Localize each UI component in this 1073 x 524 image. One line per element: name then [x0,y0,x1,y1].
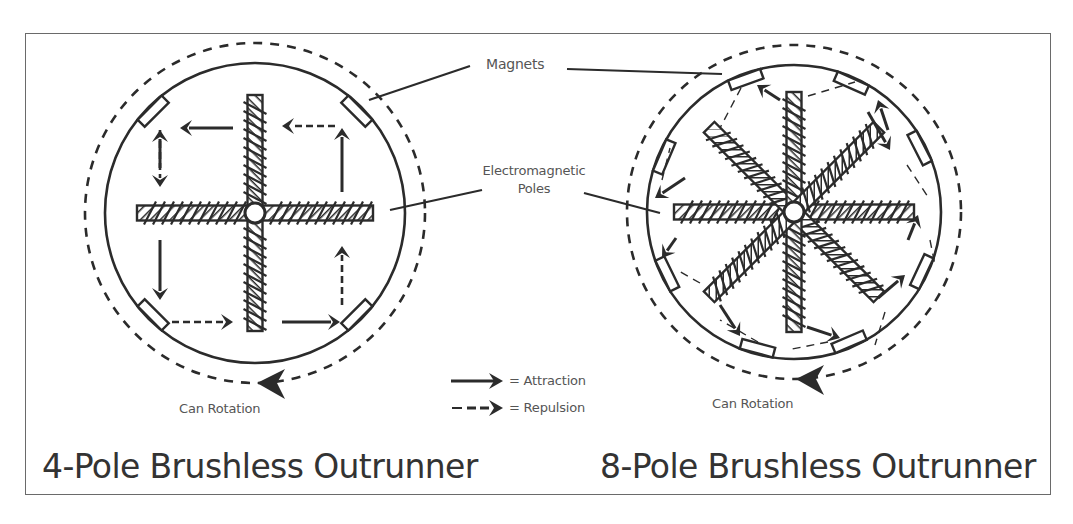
magnet [655,256,679,291]
repulsion-arrow-head [282,118,294,134]
attraction-arrow-shaft [765,90,780,100]
electromagnetic-poles-label-line2: Poles [474,181,594,196]
can-rotation-label-left: Can Rotation [179,401,260,416]
magnets-leader-left [369,66,470,100]
field-line [907,165,930,200]
magnet [138,299,169,330]
hub [784,202,804,222]
field-line [720,88,741,128]
magnets-leader-right [567,69,722,74]
magnets-label: Magnets [486,57,544,72]
field-line [677,270,700,283]
attraction-arrow-shaft [667,238,676,251]
repulsion-arrow-icon [452,400,503,416]
legend-repulsion-label: = Repulsion [509,400,585,415]
magnet [907,131,931,166]
attraction-arrow-shaft [662,178,685,193]
electromagnetic-poles-label-line1: Electromagnetic [474,163,594,178]
four-pole-diagram [85,43,425,399]
rotation-arrow-icon [257,369,285,399]
magnet [138,96,169,127]
magnet [910,254,933,289]
eight-pole-title: 8-Pole Brushless Outrunner [600,448,1036,486]
eight-pole-diagram [627,45,961,395]
attraction-arrow-icon [451,373,503,389]
field-line [720,320,758,342]
hub [245,203,265,223]
legend-attraction-label: = Attraction [509,373,586,388]
attraction-arrow-shaft [807,327,831,335]
field-line [787,342,828,350]
four-pole-title: 4-Pole Brushless Outrunner [42,448,478,486]
magnet [341,299,372,330]
motor-diagrams [0,0,1073,524]
magnet [341,96,372,127]
attraction-arrow-shaft [881,109,888,130]
can-rotation-label-right: Can Rotation [712,396,793,411]
legend-arrows [451,373,503,416]
rotation-arrow-icon [796,365,824,395]
attraction-arrow-shaft [908,223,915,240]
figure: Magnets Electromagnetic Poles = Attracti… [0,0,1073,524]
